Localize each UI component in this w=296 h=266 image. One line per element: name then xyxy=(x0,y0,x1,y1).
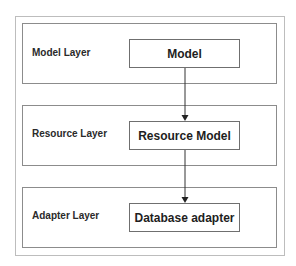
arrowhead-icon xyxy=(182,115,189,121)
arrowhead-icon xyxy=(182,197,189,203)
arrow-resource-to-adapter xyxy=(182,150,189,203)
connector-arrows xyxy=(0,0,296,266)
arrow-model-to-resource xyxy=(182,68,189,121)
